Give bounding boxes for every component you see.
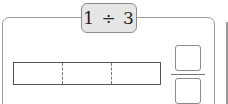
fraction-bar-line [171, 74, 205, 75]
denominator-input-box[interactable] [175, 78, 201, 104]
bar-segment-3 [111, 63, 160, 84]
division-expression-label: 1 ÷ 3 [81, 3, 137, 33]
bar-segment-1 [14, 63, 62, 84]
expression-text: 1 ÷ 3 [83, 8, 135, 28]
numerator-input-box[interactable] [175, 45, 201, 71]
answer-fraction [171, 43, 205, 104]
bar-segment-2 [62, 63, 111, 84]
adjacent-card-edge [226, 22, 228, 104]
bar-model [13, 62, 161, 85]
